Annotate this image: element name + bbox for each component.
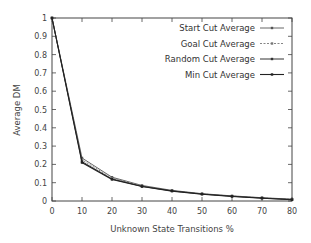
x-tick-label: 30 <box>137 207 147 216</box>
data-point <box>261 197 263 199</box>
series-line <box>52 18 292 199</box>
legend: Start Cut AverageGoal Cut AverageRandom … <box>165 23 284 80</box>
y-tick-label: 0.4 <box>34 124 47 133</box>
line-chart: 00.10.20.30.40.50.60.70.80.91 0102030405… <box>0 0 311 243</box>
x-axis-title: Unknown State Transitions % <box>110 224 234 234</box>
x-tick-label: 60 <box>227 207 237 216</box>
plot-border <box>52 18 292 201</box>
x-tick-label: 80 <box>287 207 297 216</box>
data-point <box>111 178 113 180</box>
data-point <box>291 199 293 201</box>
series-line <box>52 18 292 199</box>
y-tick-label: 0.7 <box>34 69 47 78</box>
data-point <box>141 185 143 187</box>
legend-label: Start Cut Average <box>179 23 255 33</box>
x-tick-label: 0 <box>49 207 54 216</box>
y-tick-label: 0.9 <box>34 32 47 41</box>
data-point <box>231 195 233 197</box>
legend-label: Goal Cut Average <box>181 39 255 49</box>
x-tick-label: 20 <box>107 207 117 216</box>
y-tick-label: 0.8 <box>34 51 47 60</box>
y-tick-label: 0.3 <box>34 142 47 151</box>
data-point <box>171 190 173 192</box>
x-tick-label: 50 <box>197 207 207 216</box>
x-tick-label: 70 <box>257 207 267 216</box>
y-tick-label: 0.1 <box>34 179 47 188</box>
x-tick-label: 10 <box>77 207 87 216</box>
x-axis: 01020304050607080 <box>49 18 297 216</box>
y-tick-label: 0.5 <box>34 106 47 115</box>
x-tick-label: 40 <box>167 207 177 216</box>
data-point <box>201 193 203 195</box>
y-tick-label: 0.2 <box>34 160 47 169</box>
y-axis-title: Average DM <box>12 84 22 136</box>
legend-label: Random Cut Average <box>165 54 255 64</box>
series-line <box>52 18 292 200</box>
plot-area <box>52 18 292 201</box>
data-point <box>81 161 83 163</box>
series-lines <box>51 17 293 201</box>
series-line <box>52 18 292 200</box>
legend-label: Min Cut Average <box>185 70 255 80</box>
y-tick-label: 0 <box>42 197 47 206</box>
data-point <box>51 17 53 19</box>
y-tick-label: 1 <box>42 14 47 23</box>
y-tick-label: 0.6 <box>34 87 47 96</box>
